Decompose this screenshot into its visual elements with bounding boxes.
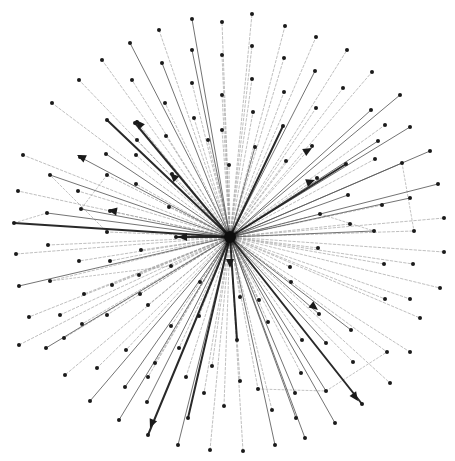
graph-node-n90[interactable] — [105, 313, 109, 317]
graph-node-n26[interactable] — [63, 373, 67, 377]
graph-node-n45[interactable] — [282, 90, 286, 94]
graph-node-n21[interactable] — [208, 448, 212, 452]
graph-node-n95[interactable] — [138, 292, 142, 296]
graph-node-n27[interactable] — [44, 346, 48, 350]
graph-node-n145[interactable] — [169, 324, 173, 328]
graph-node-n38[interactable] — [157, 28, 161, 32]
graph-node-n149[interactable] — [167, 205, 171, 209]
graph-node-n143[interactable] — [238, 295, 242, 299]
graph-node-n18[interactable] — [303, 436, 307, 440]
graph-node-n132[interactable] — [284, 159, 288, 163]
graph-node-n119[interactable] — [163, 101, 167, 105]
graph-node-n81[interactable] — [184, 375, 188, 379]
graph-node-n134[interactable] — [315, 176, 319, 180]
graph-node-n2[interactable] — [283, 24, 287, 28]
graph-node-n60[interactable] — [408, 297, 412, 301]
graph-node-n114[interactable] — [134, 153, 138, 157]
graph-node-n28[interactable] — [27, 315, 31, 319]
graph-node-n20[interactable] — [241, 449, 245, 453]
graph-node-n139[interactable] — [316, 246, 320, 250]
graph-node-n44[interactable] — [282, 56, 286, 60]
graph-node-n13[interactable] — [418, 316, 422, 320]
graph-node-n131[interactable] — [281, 124, 285, 128]
graph-node-n33[interactable] — [21, 153, 25, 157]
graph-node-n19[interactable] — [273, 443, 277, 447]
graph-node-n92[interactable] — [62, 336, 66, 340]
graph-node-n137[interactable] — [318, 212, 322, 216]
graph-node-n74[interactable] — [238, 379, 242, 383]
graph-node-n51[interactable] — [376, 139, 380, 143]
graph-node-n50[interactable] — [383, 123, 387, 127]
graph-node-n3[interactable] — [314, 35, 318, 39]
graph-node-n98[interactable] — [169, 264, 173, 268]
graph-node-n123[interactable] — [130, 78, 134, 82]
graph-node-n84[interactable] — [146, 375, 150, 379]
graph-node-n55[interactable] — [380, 203, 384, 207]
graph-node-n142[interactable] — [257, 298, 261, 302]
graph-node-n41[interactable] — [250, 44, 254, 48]
graph-node-n129[interactable] — [227, 163, 231, 167]
graph-node-n16[interactable] — [360, 402, 364, 406]
graph-node-n56[interactable] — [372, 229, 376, 233]
graph-node-n75[interactable] — [266, 320, 270, 324]
graph-node-n103[interactable] — [139, 248, 143, 252]
graph-node-n128[interactable] — [164, 134, 168, 138]
graph-node-n12[interactable] — [438, 286, 442, 290]
graph-node-n69[interactable] — [293, 391, 297, 395]
graph-node-n130[interactable] — [253, 145, 257, 149]
graph-node-n113[interactable] — [78, 155, 82, 159]
graph-node-n43[interactable] — [251, 110, 255, 114]
graph-node-n126[interactable] — [220, 128, 224, 132]
graph-node-n140[interactable] — [288, 265, 292, 269]
graph-node-n85[interactable] — [153, 361, 157, 365]
graph-node-n9[interactable] — [436, 182, 440, 186]
graph-node-n39[interactable] — [190, 17, 194, 21]
graph-node-n107[interactable] — [105, 230, 109, 234]
graph-node-n25[interactable] — [88, 399, 92, 403]
graph-node-n62[interactable] — [349, 328, 353, 332]
graph-node-n57[interactable] — [412, 229, 416, 233]
graph-node-n125[interactable] — [220, 93, 224, 97]
graph-node-n94[interactable] — [82, 292, 86, 296]
graph-node-n29[interactable] — [17, 284, 21, 288]
graph-node-n118[interactable] — [135, 138, 139, 142]
graph-node-n151[interactable] — [206, 138, 210, 142]
graph-node-n112[interactable] — [104, 152, 108, 156]
graph-node-n83[interactable] — [145, 400, 149, 404]
graph-node-n77[interactable] — [222, 404, 226, 408]
graph-node-n120[interactable] — [190, 81, 194, 85]
graph-node-n110[interactable] — [105, 173, 109, 177]
graph-node-n47[interactable] — [314, 106, 318, 110]
graph-node-n24[interactable] — [117, 418, 121, 422]
graph-node-n42[interactable] — [250, 77, 254, 81]
graph-node-n109[interactable] — [48, 173, 52, 177]
graph-node-n40[interactable] — [220, 20, 224, 24]
graph-node-n67[interactable] — [300, 338, 304, 342]
graph-node-n88[interactable] — [95, 366, 99, 370]
graph-node-n11[interactable] — [442, 250, 446, 254]
graph-node-n17[interactable] — [333, 421, 337, 425]
graph-node-n93[interactable] — [48, 279, 52, 283]
graph-node-n101[interactable] — [77, 259, 81, 263]
graph-node-n150[interactable] — [170, 172, 174, 176]
graph-node-n8[interactable] — [428, 149, 432, 153]
graph-node-n104[interactable] — [45, 211, 49, 215]
graph-node-n22[interactable] — [176, 443, 180, 447]
graph-node-n117[interactable] — [133, 121, 137, 125]
graph-node-n64[interactable] — [351, 360, 355, 364]
graph-node-n59[interactable] — [411, 262, 415, 266]
graph-node-n102[interactable] — [108, 259, 112, 263]
graph-node-n148[interactable] — [174, 235, 178, 239]
hub-node[interactable] — [224, 231, 236, 243]
graph-node-n72[interactable] — [256, 387, 260, 391]
graph-node-n99[interactable] — [17, 343, 21, 347]
graph-node-n82[interactable] — [177, 346, 181, 350]
graph-node-n135[interactable] — [344, 162, 348, 166]
graph-node-n30[interactable] — [14, 252, 18, 256]
graph-node-n36[interactable] — [100, 58, 104, 62]
graph-node-n66[interactable] — [317, 312, 321, 316]
graph-node-n10[interactable] — [442, 216, 446, 220]
graph-node-n7[interactable] — [408, 125, 412, 129]
graph-node-n14[interactable] — [408, 350, 412, 354]
graph-node-n61[interactable] — [383, 297, 387, 301]
